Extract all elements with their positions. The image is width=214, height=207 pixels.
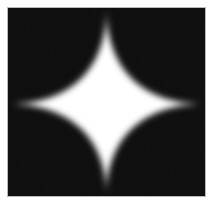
- astroid-path: [8, 8, 205, 196]
- black-field: [8, 8, 205, 196]
- astroid-star-figure: [8, 8, 205, 196]
- image-canvas: [0, 0, 214, 207]
